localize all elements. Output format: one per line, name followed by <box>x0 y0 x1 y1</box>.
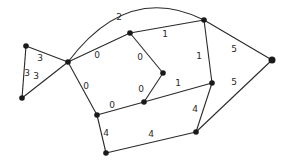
edge-weight-label: 0 <box>83 81 89 91</box>
edge-weight-label: 4 <box>192 104 198 114</box>
edge-weight-label: 3 <box>37 53 43 63</box>
edge-weight-label: 1 <box>175 78 181 88</box>
edge-weight-label: 0 <box>137 52 143 62</box>
edge-E-F <box>204 20 272 60</box>
edge-weight-label: 0 <box>138 84 144 94</box>
edge-weight-label: 1 <box>162 29 168 39</box>
edge-weight-label: 3 <box>33 71 39 81</box>
node-D <box>127 30 133 36</box>
edge-weight-label: 5 <box>231 77 237 87</box>
node-A <box>23 43 29 49</box>
graph-canvas: 33320100001154544 <box>0 0 296 163</box>
edge-weight-label: 1 <box>196 51 202 61</box>
edge-E-I <box>204 20 212 83</box>
node-K <box>193 129 199 135</box>
node-G <box>160 70 166 76</box>
edge-weight-label: 0 <box>109 100 115 110</box>
edge-weight-label: 0 <box>94 50 100 60</box>
edge-D-G <box>130 33 163 73</box>
edge-weight-label: 3 <box>24 68 30 78</box>
node-F <box>269 57 276 64</box>
edge-A-C <box>26 46 68 62</box>
node-H <box>141 99 147 105</box>
node-B <box>19 95 25 101</box>
node-J <box>94 112 100 118</box>
edge-C-E <box>68 8 204 62</box>
edge-weight-label: 5 <box>231 44 237 54</box>
edge-weight-label: 4 <box>103 128 109 138</box>
edge-weight-label: 2 <box>116 12 122 22</box>
node-L <box>103 150 109 156</box>
edge-J-H <box>97 102 144 115</box>
node-I <box>209 80 215 86</box>
node-C <box>65 59 71 65</box>
node-E <box>201 17 207 23</box>
edge-weight-label: 4 <box>148 129 154 139</box>
